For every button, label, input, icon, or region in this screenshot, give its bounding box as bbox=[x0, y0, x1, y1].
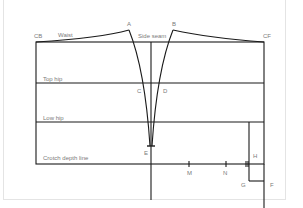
label-low-hip: Low hip bbox=[43, 115, 64, 121]
label-crotch-depth: Crotch depth line bbox=[43, 155, 88, 161]
label-d: D bbox=[163, 88, 167, 94]
label-m: M bbox=[187, 170, 192, 176]
label-h: H bbox=[253, 153, 257, 159]
label-cb: CB bbox=[34, 33, 42, 39]
label-cf: CF bbox=[263, 33, 271, 39]
label-e: E bbox=[144, 150, 148, 156]
label-waist: Waist bbox=[58, 32, 73, 38]
label-side-seam: Side seam bbox=[138, 33, 166, 39]
label-c: C bbox=[137, 88, 141, 94]
back-waist-curve bbox=[36, 30, 129, 42]
label-a: A bbox=[127, 21, 131, 27]
label-g: G bbox=[241, 182, 246, 188]
label-top-hip: Top hip bbox=[43, 76, 62, 82]
label-n: N bbox=[223, 170, 227, 176]
front-waist-curve bbox=[173, 30, 264, 42]
pattern-drawing bbox=[0, 0, 303, 208]
label-f: F bbox=[270, 182, 274, 188]
label-b: B bbox=[172, 21, 176, 27]
